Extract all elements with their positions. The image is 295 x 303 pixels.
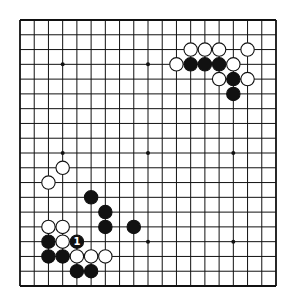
white-stone — [227, 58, 240, 71]
white-stone — [56, 220, 69, 233]
white-stone — [42, 220, 55, 233]
black-stone — [198, 58, 211, 71]
black-stone — [84, 191, 97, 204]
black-stone — [227, 72, 240, 85]
black-stone — [212, 58, 225, 71]
move-labels: 1 — [73, 236, 80, 247]
black-stone — [70, 265, 83, 278]
black-stone — [127, 220, 140, 233]
white-stone — [241, 43, 254, 56]
move-number-label: 1 — [73, 236, 80, 247]
star-point — [61, 62, 65, 66]
white-stone — [56, 161, 69, 174]
star-point — [146, 240, 150, 244]
star-point — [146, 62, 150, 66]
black-stone — [42, 235, 55, 248]
black-stone — [42, 250, 55, 263]
white-stone — [42, 176, 55, 189]
black-stone — [99, 220, 112, 233]
black-stone — [99, 205, 112, 218]
star-point — [231, 151, 235, 155]
star-point — [231, 240, 235, 244]
star-point — [61, 151, 65, 155]
black-stone — [184, 58, 197, 71]
white-stone — [99, 250, 112, 263]
star-point — [146, 151, 150, 155]
white-stone — [184, 43, 197, 56]
white-stone — [198, 43, 211, 56]
white-stone — [212, 72, 225, 85]
go-board[interactable]: 1 — [0, 0, 295, 303]
black-stone — [56, 250, 69, 263]
black-stone — [84, 265, 97, 278]
white-stone — [170, 58, 183, 71]
black-stone — [227, 87, 240, 100]
white-stone — [70, 250, 83, 263]
white-stone — [84, 250, 97, 263]
white-stone — [56, 235, 69, 248]
white-stone — [241, 72, 254, 85]
white-stone — [212, 43, 225, 56]
